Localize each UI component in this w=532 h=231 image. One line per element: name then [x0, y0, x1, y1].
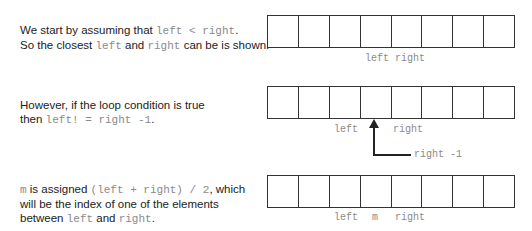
- label-right: right: [395, 212, 425, 223]
- label-right: right: [395, 53, 425, 64]
- text: then: [20, 113, 46, 125]
- array-cell: [392, 16, 423, 47]
- code-m: m: [20, 184, 27, 196]
- code-expression: left! = right -1: [46, 114, 152, 126]
- text: and: [122, 39, 148, 51]
- array-diagram-3: [267, 175, 515, 208]
- text: will be the index of one of the elements: [20, 198, 219, 210]
- text: .: [235, 24, 238, 36]
- array-cell: [361, 176, 392, 207]
- explanation-2-line-1: However, if the loop condition is true: [20, 98, 205, 112]
- label-left: left: [334, 212, 358, 223]
- label-right-minus-one: right -1: [414, 149, 462, 160]
- text: However, if the loop condition is true: [20, 99, 205, 111]
- text: , which: [209, 183, 245, 195]
- array-cell: [299, 176, 330, 207]
- label-left: left: [334, 124, 358, 135]
- code-expression: left < right: [156, 25, 235, 37]
- code-left: left: [95, 40, 121, 52]
- explanation-2-line-2: then left! = right -1.: [20, 112, 205, 127]
- text: We start by assuming that: [20, 24, 156, 36]
- array-diagram-1: [267, 15, 515, 48]
- label-left: left: [365, 53, 389, 64]
- text: can be is shown.: [180, 39, 269, 51]
- array-cell: [299, 16, 330, 47]
- code-left: left: [67, 213, 93, 225]
- array-cell: [453, 87, 484, 118]
- text: So the closest: [20, 39, 95, 51]
- array-cell: [361, 87, 392, 118]
- array-cell: [330, 176, 361, 207]
- label-right: right: [393, 124, 423, 135]
- explanation-3: m is assigned (left + right) / 2, which …: [20, 182, 245, 226]
- array-cell: [361, 16, 392, 47]
- label-m: m: [372, 212, 378, 223]
- text: and: [93, 212, 119, 224]
- explanation-1: We start by assuming that left < right. …: [20, 23, 269, 53]
- text: .: [151, 113, 154, 125]
- code-right: right: [119, 213, 152, 225]
- array-cell: [422, 87, 453, 118]
- array-cell: [299, 87, 330, 118]
- pointer-line-horizontal: [373, 154, 411, 156]
- array-cell: [422, 16, 453, 47]
- code-right: right: [147, 40, 180, 52]
- array-cell: [453, 16, 484, 47]
- array-cell: [268, 176, 299, 207]
- explanation-2: However, if the loop condition is true t…: [20, 98, 205, 127]
- array-cell: [392, 176, 423, 207]
- explanation-3-line-1: m is assigned (left + right) / 2, which: [20, 182, 245, 197]
- array-cell: [330, 16, 361, 47]
- text: between: [20, 212, 67, 224]
- text: is assigned: [27, 183, 91, 195]
- array-cell: [268, 16, 299, 47]
- array-cell: [453, 176, 484, 207]
- array-cell: [484, 87, 514, 118]
- explanation-3-line-2: will be the index of one of the elements: [20, 197, 245, 211]
- pointer-line-vertical: [373, 126, 375, 156]
- code-expression: (left + right) / 2: [91, 184, 210, 196]
- array-cell: [268, 87, 299, 118]
- explanation-1-line-2: So the closest left and right can be is …: [20, 38, 269, 53]
- array-cell: [484, 176, 514, 207]
- array-cell: [422, 176, 453, 207]
- text: .: [152, 212, 155, 224]
- array-cell: [392, 87, 423, 118]
- explanation-1-line-1: We start by assuming that left < right.: [20, 23, 269, 38]
- array-diagram-2: [267, 86, 515, 119]
- explanation-3-line-3: between left and right.: [20, 211, 245, 226]
- array-cell: [484, 16, 514, 47]
- array-cell: [330, 87, 361, 118]
